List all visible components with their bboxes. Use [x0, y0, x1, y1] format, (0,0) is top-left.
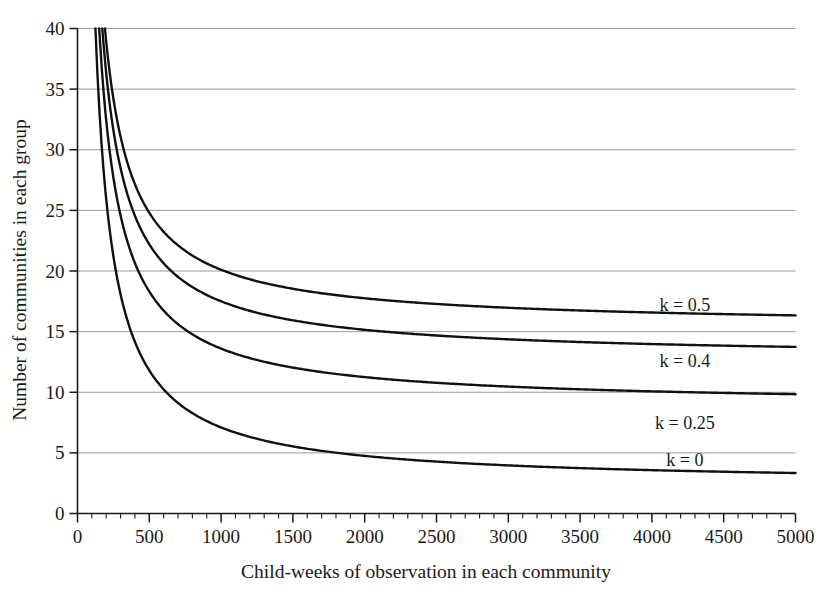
- x-ticks-group: [78, 514, 796, 523]
- x-tick-label-500: 500: [135, 526, 164, 547]
- x-tick-label-0: 0: [73, 526, 83, 547]
- x-tick-label-1000: 1000: [202, 526, 240, 547]
- x-tick-label-4000: 4000: [633, 526, 671, 547]
- series-label-0: k = 0.5: [660, 295, 711, 315]
- x-tick-label-3500: 3500: [561, 526, 599, 547]
- x-tick-labels-group: 0500100015002000250030003500400045005000: [73, 526, 815, 547]
- y-axis-title: Number of communities in each group: [9, 119, 30, 421]
- y-tick-label-25: 25: [46, 200, 65, 221]
- y-tick-label-10: 10: [46, 382, 65, 403]
- gridlines-group: [78, 29, 796, 453]
- series-labels-group: k = 0.5k = 0.4k = 0.25k = 0: [655, 295, 715, 470]
- x-tick-label-1500: 1500: [274, 526, 312, 547]
- y-tick-labels-group: 0510152025303540: [46, 18, 65, 524]
- curves-group: [95, 29, 795, 474]
- chart-svg: 0500100015002000250030003500400045005000…: [0, 0, 823, 593]
- x-axis-title: Child-weeks of observation in each commu…: [241, 561, 611, 582]
- x-tick-label-2500: 2500: [418, 526, 456, 547]
- series-curve-2: [99, 29, 795, 395]
- series-curve-3: [95, 29, 795, 474]
- x-tick-label-4500: 4500: [705, 526, 743, 547]
- y-ticks-group: [70, 29, 78, 514]
- series-label-1: k = 0.4: [660, 351, 711, 371]
- x-tick-label-2000: 2000: [346, 526, 384, 547]
- y-tick-label-35: 35: [46, 79, 65, 100]
- y-tick-label-20: 20: [46, 261, 65, 282]
- y-tick-label-30: 30: [46, 139, 65, 160]
- x-tick-label-3000: 3000: [489, 526, 527, 547]
- series-curve-0: [105, 29, 796, 316]
- y-tick-label-5: 5: [55, 442, 65, 463]
- x-tick-label-5000: 5000: [777, 526, 815, 547]
- chart-container: 0500100015002000250030003500400045005000…: [0, 0, 823, 593]
- y-tick-label-15: 15: [46, 321, 65, 342]
- y-tick-label-0: 0: [55, 503, 65, 524]
- series-label-3: k = 0: [666, 450, 703, 470]
- series-label-2: k = 0.25: [655, 413, 715, 433]
- y-tick-label-40: 40: [46, 18, 65, 39]
